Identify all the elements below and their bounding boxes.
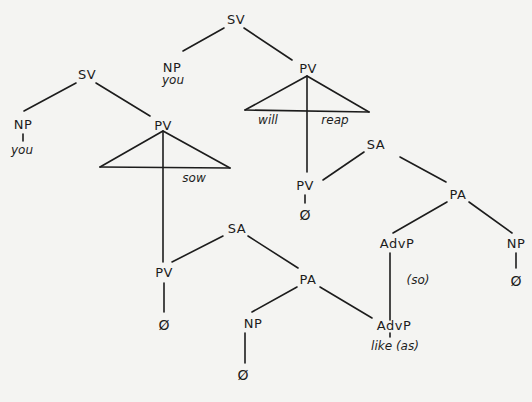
edge (400, 157, 446, 182)
word-like-as: like (as) (371, 339, 419, 353)
node-pa-right: PA (450, 187, 467, 202)
edge (183, 28, 224, 51)
left-sv-subtree: SV NP you PV sow (10, 67, 230, 262)
node-pa-lower: PA (300, 272, 317, 287)
node-pv-lower: PV (155, 265, 173, 280)
edge (252, 287, 297, 312)
triangle-base (100, 167, 230, 168)
edge (248, 236, 298, 268)
edge (469, 202, 512, 233)
word-will: will (258, 113, 278, 127)
null-pv-lower: Ø (158, 317, 169, 333)
edge (323, 152, 364, 180)
word-reap: reap (321, 113, 349, 127)
node-pv-right: PV (296, 178, 314, 193)
node-pv-main: PV (299, 61, 317, 76)
node-advp-lower: AdvP (377, 318, 411, 333)
node-advp-right: AdvP (380, 236, 414, 251)
node-sa-right: SA (367, 137, 385, 152)
node-np-right: NP (507, 236, 526, 251)
node-sa-lower: SA (228, 221, 246, 236)
edge (172, 236, 223, 262)
edge (96, 83, 150, 116)
edge (393, 202, 447, 233)
null-np-lower: Ø (237, 367, 248, 383)
word-you-left: you (10, 143, 33, 157)
null-np-right: Ø (510, 273, 521, 289)
node-np-left: NP (14, 117, 33, 132)
syntax-tree-diagram: SV NP you PV will reap SA PV Ø PA AdvP (… (0, 0, 532, 402)
node-sv-main: SV (227, 12, 245, 27)
edge (24, 83, 76, 111)
node-np-lower: NP (244, 316, 263, 331)
node-sv-left: SV (78, 67, 96, 82)
word-so: (so) (407, 273, 430, 287)
null-pv-right: Ø (299, 207, 310, 223)
edge (320, 287, 372, 318)
triangle (100, 131, 230, 168)
word-sow: sow (182, 171, 206, 185)
edge (244, 28, 292, 60)
word-you-main: you (161, 73, 184, 87)
